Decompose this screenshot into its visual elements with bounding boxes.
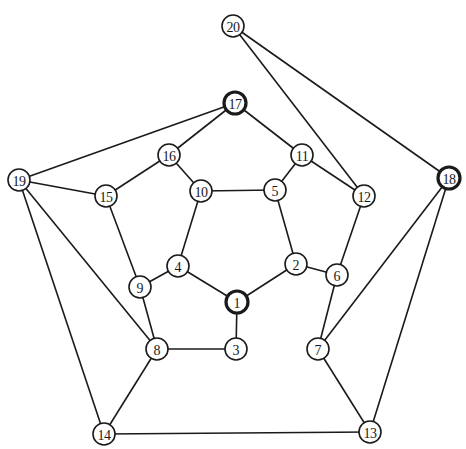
edge-8-14 [104, 349, 157, 434]
edge-19-8 [19, 180, 157, 349]
graph-diagram: 1234567891011121314151617181920 [0, 0, 466, 449]
node-label: 14 [98, 428, 112, 443]
node-2: 2 [285, 253, 307, 275]
node-label: 10 [195, 185, 209, 200]
node-label: 15 [100, 190, 114, 205]
node-6: 6 [326, 264, 348, 286]
node-17: 17 [224, 92, 246, 114]
node-label: 4 [175, 260, 182, 275]
edge-15-9 [106, 196, 140, 287]
node-3: 3 [225, 338, 247, 360]
node-label: 1 [234, 296, 241, 311]
node-16: 16 [158, 144, 180, 166]
node-label: 6 [334, 269, 341, 284]
node-7: 7 [307, 338, 329, 360]
node-11: 11 [291, 144, 313, 166]
edge-14-13 [104, 432, 370, 434]
node-label: 8 [154, 343, 161, 358]
node-10: 10 [190, 180, 212, 202]
edge-17-11 [235, 103, 302, 155]
edge-20-18 [233, 26, 449, 178]
edge-19-14 [19, 180, 104, 434]
edge-17-16 [169, 103, 235, 155]
node-label: 9 [137, 281, 144, 296]
node-label: 17 [229, 97, 243, 112]
node-label: 5 [272, 184, 279, 199]
edge-18-13 [370, 178, 449, 432]
edge-19-15 [19, 180, 106, 196]
node-12: 12 [353, 185, 375, 207]
node-19: 19 [8, 169, 30, 191]
node-label: 2 [293, 258, 300, 273]
node-label: 11 [296, 149, 309, 164]
node-14: 14 [93, 423, 115, 445]
node-13: 13 [359, 421, 381, 443]
node-label: 20 [227, 20, 241, 35]
node-5: 5 [264, 179, 286, 201]
node-4: 4 [167, 255, 189, 277]
edge-layer [19, 26, 449, 434]
node-20: 20 [222, 15, 244, 37]
node-label: 19 [13, 174, 27, 189]
node-label: 18 [443, 172, 457, 187]
node-label: 16 [163, 149, 177, 164]
node-15: 15 [95, 185, 117, 207]
node-label: 13 [364, 426, 378, 441]
node-18: 18 [438, 167, 460, 189]
node-layer: 1234567891011121314151617181920 [8, 15, 460, 445]
node-9: 9 [129, 276, 151, 298]
node-label: 12 [358, 190, 372, 205]
edge-7-13 [318, 349, 370, 432]
edge-20-12 [233, 26, 364, 196]
edge-12-6 [337, 196, 364, 275]
node-1: 1 [226, 291, 248, 313]
node-8: 8 [146, 338, 168, 360]
node-label: 3 [233, 343, 240, 358]
edge-17-19 [19, 103, 235, 180]
node-label: 7 [315, 343, 322, 358]
